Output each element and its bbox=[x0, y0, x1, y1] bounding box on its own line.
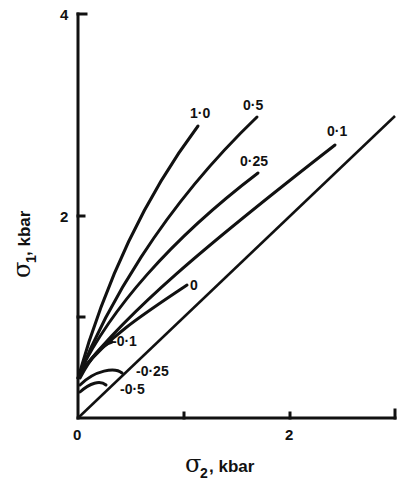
curve-label-1-0: 1·0 bbox=[190, 105, 210, 121]
y-axis-unit: , kbar bbox=[15, 210, 34, 256]
curve-label-0-1: 0·1 bbox=[327, 123, 347, 139]
x-tick-label-2: 2 bbox=[285, 426, 293, 443]
y-axis-symbol: σ bbox=[8, 262, 36, 278]
y-tick-label-4: 4 bbox=[60, 6, 69, 23]
x-axis-unit: , kbar bbox=[209, 457, 255, 476]
curve-label-0-5: 0·5 bbox=[243, 97, 263, 113]
curve-0-5 bbox=[78, 117, 257, 378]
chart: 1·0 0·5 0·25 0·1 0 -0·1 -0·25 -0·5 4 2 0… bbox=[0, 0, 409, 488]
curve-label-m0-1: -0·1 bbox=[112, 333, 137, 349]
y-tick-label-2: 2 bbox=[60, 208, 68, 225]
x-axis-symbol: σ bbox=[185, 450, 201, 478]
curves bbox=[78, 117, 335, 392]
axes bbox=[78, 14, 395, 418]
curve-0 bbox=[84, 285, 187, 368]
x-tick-label-0: 0 bbox=[73, 426, 81, 443]
curve-label-0: 0 bbox=[190, 277, 198, 293]
x-axis-label: σ 2 , kbar bbox=[185, 450, 255, 481]
x-axis-subscript: 2 bbox=[200, 465, 208, 481]
curve-label-m0-5: -0·5 bbox=[120, 381, 145, 397]
reference-line-equal-stress bbox=[78, 116, 395, 418]
curve-label-m0-25: -0·25 bbox=[136, 363, 169, 379]
y-axis-label: σ 1 , kbar bbox=[8, 210, 39, 278]
curve-m0-5 bbox=[80, 383, 106, 392]
curve-label-0-25: 0·25 bbox=[240, 153, 268, 169]
